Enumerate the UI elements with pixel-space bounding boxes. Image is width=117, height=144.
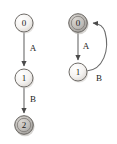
node-0-left[interactable]: 0	[15, 14, 34, 34]
edge-label-B-left: B	[30, 94, 36, 104]
node-1-right[interactable]: 1	[69, 63, 88, 83]
node-0-right[interactable]: 0	[69, 14, 89, 35]
node-1-left[interactable]: 1	[15, 69, 34, 89]
edge-right-1-to-0: B	[87, 23, 107, 83]
right-automaton: A B 0 1	[69, 14, 107, 83]
edge-curve	[87, 23, 107, 71]
state-diagram-figure: A B 0 1	[0, 0, 117, 144]
left-automaton: A B 0 1	[15, 14, 37, 136]
edge-left-1-to-2: B	[24, 88, 36, 114]
edge-label-A-left: A	[30, 43, 37, 53]
edge-right-0-to-1: A	[78, 33, 90, 61]
diagram-canvas: A B 0 1	[0, 0, 117, 144]
node-circle	[69, 63, 87, 81]
node-2-left[interactable]: 2	[15, 116, 35, 137]
edge-label-B-right: B	[96, 73, 102, 83]
node-circle	[15, 14, 33, 32]
edge-label-A-right: A	[83, 41, 90, 51]
node-circle	[15, 69, 33, 87]
edge-left-0-to-1: A	[24, 33, 37, 67]
